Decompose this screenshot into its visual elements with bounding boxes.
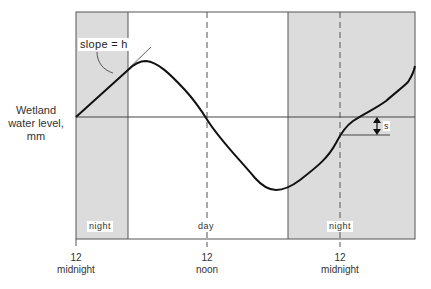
tick-hour: 12: [46, 252, 106, 264]
period-label-night-1: night: [87, 221, 113, 232]
x-tick-label-noon: 12 noon: [177, 252, 237, 276]
tick-hour: 12: [177, 252, 237, 264]
s-label: s: [383, 121, 390, 131]
x-tick-label-midnight-left: 12 midnight: [46, 252, 106, 276]
y-label-line-1: Wetland: [0, 104, 72, 117]
x-tick-label-midnight-right: 12 midnight: [310, 252, 370, 276]
slope-label: slope = h: [78, 38, 130, 51]
y-label-line-3: mm: [0, 130, 72, 143]
tick-period: midnight: [310, 264, 370, 276]
water-level-diagram: [0, 0, 431, 289]
tick-period: noon: [177, 264, 237, 276]
tick-hour: 12: [310, 252, 370, 264]
y-label-line-2: water level,: [0, 117, 72, 130]
y-axis-label: Wetland water level, mm: [0, 104, 72, 143]
period-label-night-2: night: [327, 221, 353, 232]
tick-period: midnight: [46, 264, 106, 276]
period-label-day: day: [196, 221, 216, 232]
night-region-2: [288, 12, 415, 239]
